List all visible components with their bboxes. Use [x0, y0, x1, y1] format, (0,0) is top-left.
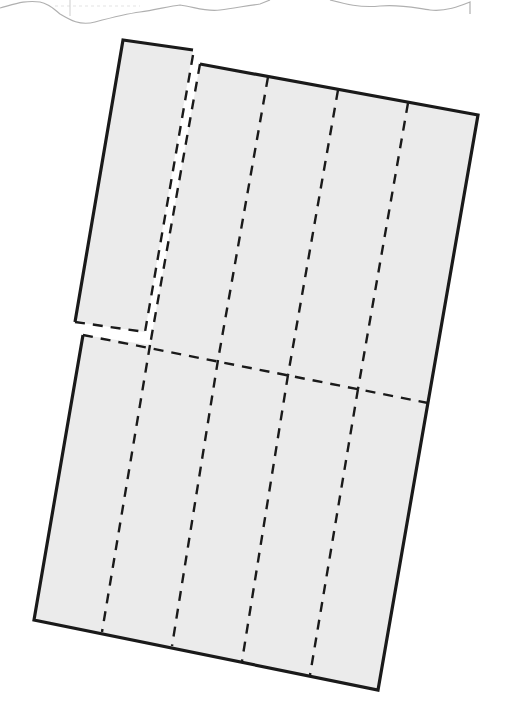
main-panel [34, 64, 478, 690]
box-net-diagram [0, 0, 508, 703]
torn-edge [0, 0, 470, 23]
